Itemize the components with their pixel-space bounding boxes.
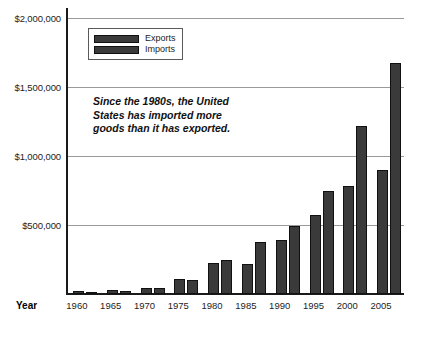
bar-chart: $500,000$1,000,000$1,500,000$2,000,000 1… — [0, 0, 423, 340]
bar-exports-2000 — [343, 186, 354, 294]
bar-exports-1980 — [208, 263, 219, 294]
bar-group — [242, 8, 266, 294]
bar-exports-1985 — [242, 264, 253, 294]
chart-legend: Exports Imports — [88, 28, 183, 60]
bar-group — [310, 8, 334, 294]
bar-imports-1975 — [187, 280, 198, 294]
annotation-line-1: Since the 1980s, the United — [93, 95, 258, 109]
annotation-line-3: goods than it has exported. — [93, 122, 258, 136]
bar-imports-1985 — [255, 242, 266, 294]
y-axis-tick-label: $1,500,000 — [14, 81, 61, 92]
bar-exports-1995 — [310, 215, 321, 294]
bar-imports-1970 — [154, 288, 165, 294]
legend-swatch-imports — [94, 46, 139, 54]
annotation-line-2: States has imported more — [93, 109, 258, 123]
x-axis-tick-labels: 1960196519701975198019851990199520002005 — [66, 300, 404, 318]
bar-imports-2000 — [356, 126, 367, 294]
y-axis-tick-label: $1,000,000 — [14, 150, 61, 161]
bar-group — [343, 8, 367, 294]
bar-imports-1980 — [221, 260, 232, 294]
bar-group — [276, 8, 300, 294]
bar-imports-1990 — [289, 226, 300, 294]
x-axis-tick-label-2005: 2005 — [361, 300, 401, 311]
bar-exports-1965 — [107, 290, 118, 294]
legend-item-imports: Imports — [94, 44, 176, 55]
bar-exports-1990 — [276, 240, 287, 294]
bar-imports-1960 — [86, 292, 97, 294]
legend-label-exports: Exports — [145, 33, 176, 44]
bar-imports-1995 — [323, 191, 334, 294]
y-axis-tick-label: $500,000 — [22, 219, 61, 230]
x-axis-title: Year — [16, 300, 37, 311]
chart-annotation: Since the 1980s, the United States has i… — [93, 95, 258, 136]
bar-exports-1970 — [141, 288, 152, 294]
bar-exports-1975 — [174, 279, 185, 294]
bar-imports-2005 — [390, 63, 401, 294]
y-axis-tick-label: $2,000,000 — [14, 12, 61, 23]
bar-exports-1960 — [73, 291, 84, 294]
bar-imports-1965 — [120, 291, 131, 294]
legend-label-imports: Imports — [145, 44, 175, 55]
legend-swatch-exports — [94, 35, 139, 43]
legend-item-exports: Exports — [94, 33, 176, 44]
bar-group — [377, 8, 401, 294]
bar-group — [208, 8, 232, 294]
bar-exports-2005 — [377, 170, 388, 294]
